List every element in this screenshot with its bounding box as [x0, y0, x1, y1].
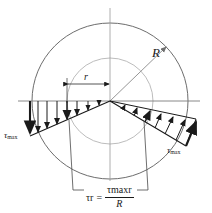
stress-formula: τr = τmaxr R: [86, 185, 134, 209]
formula-equals: =: [96, 192, 102, 203]
label-inner-radius-r: r: [84, 72, 88, 82]
formula-fraction: τmaxr R: [105, 185, 134, 209]
tau-subscript-right: max: [170, 149, 180, 155]
label-tau-max-right: τmax: [167, 146, 180, 156]
formula-numerator-subscript: max: [111, 184, 128, 195]
label-outer-radius-R: R: [152, 46, 160, 59]
formula-lhs-subscript: r: [90, 192, 93, 203]
right-wedge-lower-line: [110, 101, 186, 146]
formula-denominator: R: [114, 199, 124, 210]
tau-subscript-left: max: [7, 134, 17, 140]
torsion-stress-diagram: [0, 0, 212, 213]
left-stress-arrow-group: [30, 101, 99, 133]
formula-lhs: τr: [86, 192, 93, 203]
formula-leader-right: [137, 121, 148, 190]
formula-numerator: τmaxr: [105, 185, 134, 196]
formula-leader-left: [69, 120, 84, 190]
label-tau-max-left: τmax: [4, 131, 17, 141]
figure-canvas: R r τmax τmax τr = τmaxr R: [0, 0, 212, 213]
formula-numerator-factor: r: [128, 184, 131, 195]
